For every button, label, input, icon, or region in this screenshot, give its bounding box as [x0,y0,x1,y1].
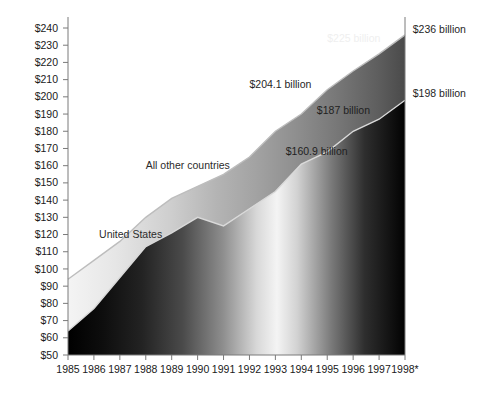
annotation-value-187: $187 billion [317,104,370,116]
annotation-value-204-1: $204.1 billion [249,78,311,90]
y-axis-tick-label: $80 [40,297,58,309]
y-axis-tick-label: $190 [35,108,59,120]
annotation-value-198: $198 billion [413,87,466,99]
y-axis-tick-label: $130 [35,211,59,223]
y-axis-tick-label: $90 [40,280,58,292]
x-axis-tick-label: 1998* [391,363,418,375]
y-axis-tick-label: $120 [35,228,59,240]
annotation-value-236: $236 billion [413,23,466,35]
y-axis-tick-label: $150 [35,176,59,188]
x-axis-tick-label: 1990 [186,363,210,375]
y-axis-tick-label: $160 [35,159,59,171]
y-axis-tick-label: $60 [40,331,58,343]
y-axis-tick-label: $170 [35,142,59,154]
x-axis-tick-label: 1995 [316,363,340,375]
x-axis-tick-label: 1986 [82,363,106,375]
annotation-value-225: $225 billion [327,32,380,44]
annotation-series-label-us: United States [99,228,162,240]
x-axis-tick-label: 1994 [290,363,314,375]
x-axis-tick-label: 1987 [108,363,132,375]
chart-container: $50$60$70$80$90$100$110$120$130$140$150$… [0,0,480,409]
annotation-value-160-9: $160.9 billion [286,145,348,157]
y-axis-tick-label: $110 [35,245,58,257]
x-axis-tick-label: 1992 [238,363,262,375]
y-axis-tick-label: $50 [40,349,58,361]
annotation-series-label-other: All other countries [146,159,230,171]
y-axis-tick-label: $230 [35,39,59,51]
y-axis-tick-label: $200 [35,90,59,102]
y-axis-tick-label: $140 [35,194,59,206]
y-axis-tick-label: $70 [40,314,58,326]
x-axis-tick-label: 1985 [56,363,80,375]
x-axis-tick-labels: 1985198619871988198919901991199219931994… [56,363,418,375]
stacked-area-chart: $50$60$70$80$90$100$110$120$130$140$150$… [0,0,480,409]
y-axis-tick-label: $180 [35,125,59,137]
x-axis-tick-label: 1993 [264,363,288,375]
y-axis-tick-label: $210 [35,73,59,85]
y-axis-tick-label: $220 [35,56,59,68]
y-axis-tick-label: $100 [35,263,59,275]
x-axis-tick-label: 1991 [212,363,236,375]
x-axis-tick-label: 1989 [160,363,184,375]
x-axis-tick-label: 1996 [341,363,365,375]
x-axis-tick-label: 1988 [134,363,158,375]
y-axis-tick-label: $240 [35,22,59,34]
x-axis-tick-label: 1997 [367,363,391,375]
